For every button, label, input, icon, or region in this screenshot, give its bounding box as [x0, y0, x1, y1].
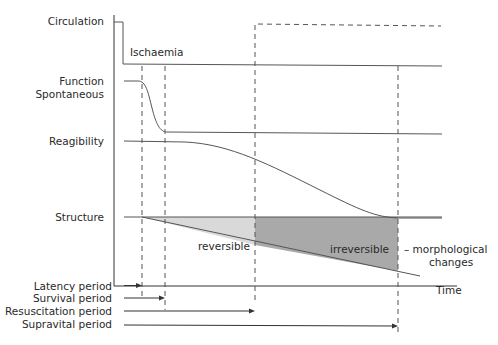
circulation-line: [114, 22, 442, 66]
label-resuscitation-period: Resuscitation period: [5, 305, 112, 317]
label-latency-period: Latency period: [34, 280, 112, 292]
label-reversible: reversible: [198, 240, 250, 252]
label-structure: Structure: [55, 211, 104, 223]
label-ischaemia: Ischaemia: [130, 46, 183, 58]
label-changes: changes: [429, 256, 473, 268]
label-irreversible: irreversible: [330, 243, 389, 255]
function-curve: [124, 81, 442, 134]
label-spontaneous: Spontaneous: [35, 88, 104, 100]
x-axis-label-time: Time: [435, 284, 462, 296]
label-circulation: Circulation: [48, 15, 104, 27]
period-arrows: [124, 283, 398, 329]
label-morphological: – morphological: [404, 243, 487, 255]
reagibility-curve: [124, 141, 442, 218]
label-survival-period: Survival period: [33, 292, 112, 304]
label-reagibility: Reagibility: [49, 135, 104, 147]
label-function: Function: [59, 75, 104, 87]
label-supravital-period: Supravital period: [22, 318, 112, 330]
ischaemia-diagram: Circulation Function Spontaneous Reagibi…: [0, 0, 498, 345]
